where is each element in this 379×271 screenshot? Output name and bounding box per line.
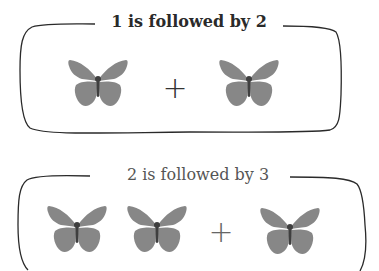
butterfly-icon	[127, 203, 187, 255]
bottom-panel-title: 2 is followed by 3	[119, 167, 277, 183]
butterfly-icon	[47, 203, 107, 255]
plus-sign: +	[162, 73, 187, 103]
plus-sign: +	[208, 217, 233, 247]
butterfly-icon	[68, 57, 128, 109]
top-panel-title: 1 is followed by 2	[103, 14, 275, 30]
counting-diagram: 1 is followed by 2 2 is followed by 3 + …	[0, 0, 379, 271]
butterfly-icon	[260, 205, 320, 257]
butterfly-icon	[219, 57, 279, 109]
